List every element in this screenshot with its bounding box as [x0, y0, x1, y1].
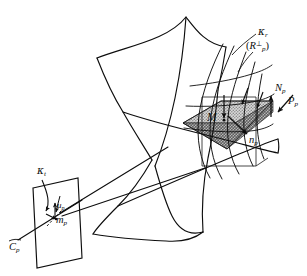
- label-r-perp: (R⊥p): [246, 41, 269, 53]
- sight-line-upper: [60, 147, 168, 213]
- kappa-t-glyph: κ: [37, 164, 44, 176]
- sight-line-lower: [62, 168, 205, 216]
- label-point-m: M: [207, 112, 217, 124]
- u-p-subscript: p: [62, 205, 65, 211]
- n-small-p-subscript: p: [254, 139, 258, 147]
- label-n-cap-p: Np: [275, 83, 286, 95]
- label-p-cap-p: Pp: [288, 96, 298, 108]
- label-kappa-r: κr: [258, 26, 268, 39]
- c-p-subscript: p: [16, 246, 20, 254]
- kappa-r-glyph: κ: [258, 25, 265, 37]
- label-kappa-t: κt: [37, 165, 46, 178]
- c-p-base: C: [9, 241, 16, 252]
- m-small-p-subscript: p: [64, 219, 68, 227]
- r-perp-close-paren: ): [265, 40, 269, 51]
- label-c-p: Cp: [9, 242, 20, 254]
- p-cap-p-subscript: p: [294, 100, 298, 108]
- optical-rays: [18, 147, 205, 240]
- m-small-p-base: m: [56, 214, 64, 225]
- point-m-dot: [223, 119, 226, 122]
- kappa-t-subscript: t: [44, 170, 46, 178]
- n-cap-p-subscript: p: [282, 87, 286, 95]
- label-u-p: up: [57, 201, 65, 211]
- figure-canvas: κr (R⊥p) Np Pp M np κt up mp Cp: [0, 0, 307, 276]
- kappa-r-subscript: r: [265, 31, 268, 39]
- n-cap-p-base: N: [275, 82, 282, 93]
- label-m-small-p: mp: [56, 215, 67, 227]
- label-n-small-p: np: [249, 135, 258, 147]
